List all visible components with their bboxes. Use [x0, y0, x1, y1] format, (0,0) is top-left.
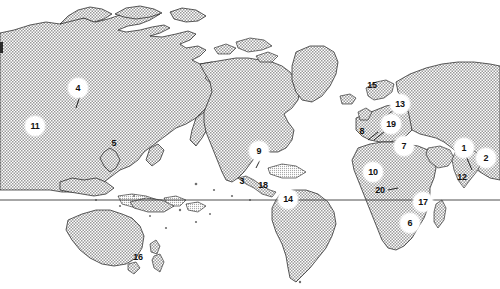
world-map-canvas [0, 0, 500, 289]
map-marker-2[interactable]: 2 [477, 149, 496, 168]
map-marker-8[interactable]: 8 [359, 127, 366, 136]
left-edge-crop-mark [0, 42, 3, 53]
marker-label: 11 [30, 122, 39, 131]
map-marker-11[interactable]: 11 [26, 117, 45, 136]
map-marker-6[interactable]: 6 [401, 214, 420, 233]
map-marker-18[interactable]: 18 [257, 181, 269, 190]
map-marker-13[interactable]: 13 [391, 95, 410, 114]
marker-label: 19 [386, 120, 396, 129]
map-marker-12[interactable]: 12 [456, 173, 468, 182]
landmass-new-zealand [150, 240, 164, 272]
map-marker-17[interactable]: 17 [414, 193, 433, 212]
marker-label: 5 [112, 139, 117, 148]
marker-label: 10 [368, 168, 378, 177]
marker-label: 14 [283, 195, 293, 204]
map-marker-1[interactable]: 1 [455, 139, 474, 158]
map-marker-3[interactable]: 3 [239, 177, 246, 186]
marker-label: 3 [240, 177, 245, 186]
marker-label: 17 [418, 198, 428, 207]
marker-label: 16 [133, 253, 143, 262]
map-marker-5[interactable]: 5 [111, 139, 118, 148]
marker-label: 6 [408, 219, 413, 228]
map-marker-7[interactable]: 7 [395, 137, 414, 156]
marker-label: 15 [367, 81, 377, 90]
map-marker-10[interactable]: 10 [364, 163, 383, 182]
map-marker-14[interactable]: 14 [279, 190, 298, 209]
marker-label: 9 [257, 147, 262, 156]
marker-label: 1 [462, 144, 467, 153]
marker-label: 7 [402, 142, 407, 151]
map-marker-9[interactable]: 9 [250, 142, 269, 161]
marker-label: 2 [484, 154, 489, 163]
map-marker-16[interactable]: 16 [132, 253, 144, 262]
landmass-iceland [340, 94, 356, 104]
marker-label: 12 [457, 173, 467, 182]
marker-label: 4 [76, 84, 81, 93]
landmass-madagascar [434, 200, 446, 228]
marker-label: 13 [395, 100, 405, 109]
map-marker-20[interactable]: 20 [374, 186, 386, 195]
landmass-north-america [200, 58, 300, 182]
landmass-greenland [292, 46, 338, 102]
map-marker-4[interactable]: 4 [69, 79, 88, 98]
world-map-figure: 1 2 3 4 5 6 7 8 9 10 11 12 13 14 15 16 1… [0, 0, 500, 289]
map-marker-15[interactable]: 15 [366, 81, 378, 90]
landmass-australia [66, 210, 144, 274]
map-marker-19[interactable]: 19 [382, 115, 401, 134]
marker-label: 18 [258, 181, 268, 190]
marker-label: 20 [375, 186, 385, 195]
marker-label: 8 [360, 127, 365, 136]
